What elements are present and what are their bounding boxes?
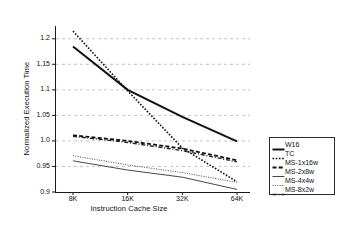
legend-line-sample (272, 140, 285, 149)
legend-line-sample (272, 149, 285, 158)
axis-spines (55, 26, 250, 193)
legend-item-label: TC (285, 149, 294, 158)
legend-item-ms-4x4w[interactable]: MS-4x4w (272, 176, 334, 185)
x-tick-label: 8K (58, 195, 88, 202)
legend-item-label: MS-8x2w (285, 185, 314, 194)
legend-line-sample (272, 158, 285, 167)
y-tick-label: 1.1 (24, 85, 50, 92)
series-line-tc (73, 31, 237, 182)
legend-item-ms-2x8w[interactable]: MS-2x8w (272, 167, 334, 176)
y-tick-label: 1.0 (24, 136, 50, 143)
x-tick-label: 16K (113, 195, 143, 202)
legend-item-label: MS-4x4w (285, 176, 314, 185)
legend-item-ms-8x2w[interactable]: MS-8x2w (272, 185, 334, 194)
legend-item-ms-1x16w[interactable]: MS-1x16w (272, 158, 334, 167)
x-tick-label: 64K (222, 195, 252, 202)
y-tick-label: 0.95 (24, 162, 50, 169)
legend-item-label: W16 (285, 140, 299, 149)
x-tick-label: 32K (167, 195, 197, 202)
legend-line-sample (272, 176, 285, 185)
series-line-ms-8x2w (73, 136, 237, 162)
series-line-w16 (73, 46, 237, 141)
legend-line-sample (272, 167, 285, 176)
x-axis-title: Instruction Cache Size (0, 204, 258, 213)
y-tick-label: 1.15 (24, 60, 50, 67)
y-tick-label: 1.05 (24, 111, 50, 118)
legend-item-tc[interactable]: TC (272, 149, 334, 158)
legend: W16TCMS-1x16wMS-2x8wMS-4x4wMS-8x2w (269, 137, 335, 195)
y-tick-label: 0.9 (24, 188, 50, 195)
chart-figure: Instruction Cache Size Normalized Execut… (0, 0, 340, 225)
series-line-ms-2x8w (73, 161, 237, 190)
data-series-group (73, 31, 237, 189)
legend-item-label: MS-1x16w (285, 158, 318, 167)
legend-item-w16[interactable]: W16 (272, 140, 334, 149)
legend-item-label: MS-2x8w (285, 167, 314, 176)
legend-line-sample (272, 185, 285, 194)
y-tick-label: 1.2 (24, 34, 50, 41)
series-line-ms-4x4w (73, 156, 237, 183)
